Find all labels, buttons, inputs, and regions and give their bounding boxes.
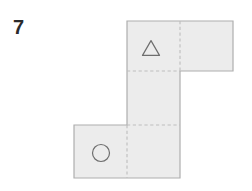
net-svg-canvas [0,0,252,191]
cube-net-figure [0,0,252,191]
puzzle-page: 7 [0,0,252,191]
